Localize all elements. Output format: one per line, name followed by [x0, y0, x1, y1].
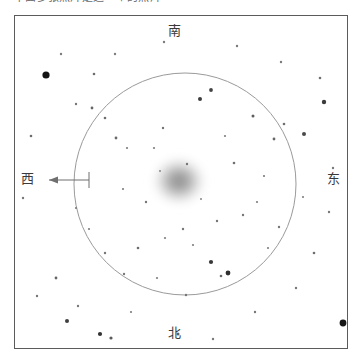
star-point [226, 271, 231, 276]
star-point [242, 214, 244, 216]
star-point [60, 53, 62, 55]
arrow-head [49, 176, 58, 183]
star-point [186, 163, 188, 165]
star-point [153, 147, 155, 149]
star-point [122, 188, 124, 190]
star-point [236, 45, 238, 47]
star-point [220, 275, 223, 278]
star-point [126, 147, 128, 149]
direction-label-north: 北 [168, 326, 181, 340]
star-point [224, 135, 226, 137]
star-point [55, 277, 58, 280]
star-point [137, 247, 140, 250]
star-point [302, 196, 304, 198]
star-point [42, 71, 49, 78]
star-point [216, 220, 218, 222]
star-point [91, 107, 94, 110]
star-point [280, 61, 282, 63]
star-point [254, 311, 256, 313]
star-point [114, 53, 116, 55]
caption-text: 下面多张照片是这一个的照片 [14, 0, 161, 4]
star-point [22, 197, 24, 199]
star-point [332, 167, 334, 169]
direction-label-south: 南 [168, 24, 181, 38]
star-point [109, 336, 112, 339]
star-point [182, 228, 184, 230]
star-point [75, 207, 77, 209]
star-point [313, 252, 316, 255]
star-point [185, 294, 187, 296]
star-point [295, 287, 297, 289]
star-point [200, 198, 202, 200]
star-point [267, 247, 269, 249]
nebula-glow [149, 154, 209, 208]
star-point [283, 123, 286, 126]
scale-arrow [49, 172, 89, 188]
star-point [36, 295, 38, 297]
star-point [88, 228, 90, 230]
star-point [233, 162, 236, 165]
star-point [65, 319, 69, 323]
star-point [340, 320, 347, 327]
star-point [123, 273, 125, 275]
star-point [145, 201, 147, 203]
star-point [162, 127, 164, 129]
star-chart-frame [14, 15, 348, 349]
nebula-object [149, 154, 209, 208]
star-point [256, 201, 258, 203]
sky-field [15, 16, 348, 349]
star-point [104, 117, 107, 120]
star-point [93, 73, 96, 76]
star-point [263, 175, 265, 177]
direction-label-east: 东 [327, 172, 340, 186]
star-point [164, 237, 166, 239]
finder-chart-page: 下面多张照片是这一个的照片 南 [0, 0, 356, 359]
star-point [319, 77, 322, 80]
star-point [198, 97, 202, 101]
star-point [302, 132, 306, 136]
direction-label-west: 西 [21, 172, 34, 186]
star-point [278, 226, 280, 228]
star-point [156, 277, 158, 279]
star-point [192, 244, 194, 246]
caption-strip: 下面多张照片是这一个的照片 [0, 0, 356, 7]
star-point [75, 103, 77, 105]
star-point [115, 137, 118, 140]
star-point [209, 260, 213, 264]
star-point [163, 41, 165, 43]
star-point [77, 305, 79, 307]
star-point [212, 338, 214, 340]
star-point [104, 252, 106, 254]
star-point [130, 311, 132, 313]
star-point [322, 100, 326, 104]
star-point [328, 211, 330, 213]
star-point [273, 138, 276, 141]
star-point [98, 332, 102, 336]
star-point [159, 170, 161, 172]
star-point [252, 115, 255, 118]
star-point [30, 135, 33, 138]
star-point [209, 88, 213, 92]
